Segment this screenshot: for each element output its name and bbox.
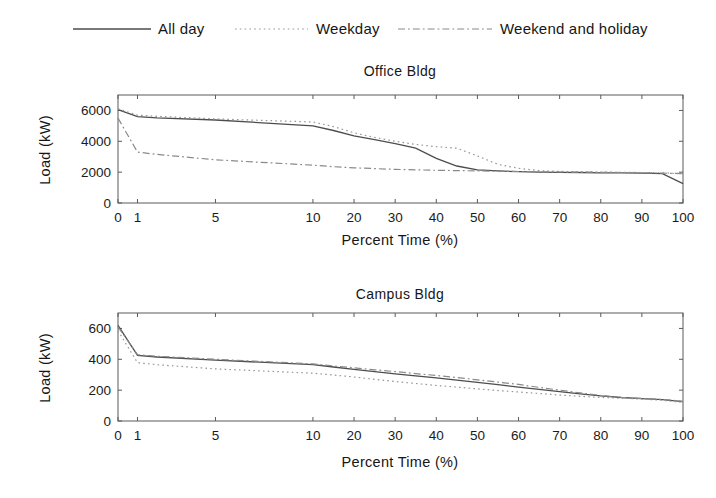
- series-line-solid: [118, 325, 683, 401]
- x-tick-label: 30: [388, 428, 403, 443]
- office-x-axis-label: Percent Time (%): [342, 232, 459, 248]
- x-tick-label: 10: [305, 210, 320, 225]
- x-tick-label: 80: [593, 428, 608, 443]
- x-tick-label: 50: [470, 428, 485, 443]
- series-line-solid: [118, 110, 683, 184]
- y-tick-label: 0: [103, 196, 111, 211]
- y-tick-label: 0: [103, 414, 111, 429]
- plot-canvas: 0151020304050607080901000200040006000015…: [0, 0, 716, 498]
- plot-frame: [118, 95, 683, 203]
- y-tick-label: 6000: [81, 103, 111, 118]
- x-tick-label: 5: [212, 210, 220, 225]
- y-tick-label: 600: [88, 321, 111, 336]
- series-line-dotted: [118, 109, 683, 174]
- load-duration-figure: All day Weekday Weekend and holiday 0151…: [0, 0, 716, 498]
- series-line-dotted: [118, 331, 683, 403]
- x-tick-label: 100: [672, 428, 695, 443]
- y-tick-label: 4000: [81, 134, 111, 149]
- x-tick-label: 100: [672, 210, 695, 225]
- x-tick-label: 70: [552, 210, 567, 225]
- plot-frame: [118, 313, 683, 421]
- x-tick-label: 10: [305, 428, 320, 443]
- x-tick-label: 50: [470, 210, 485, 225]
- x-tick-label: 40: [429, 428, 444, 443]
- x-tick-label: 90: [634, 210, 649, 225]
- x-tick-label: 40: [429, 210, 444, 225]
- campus-x-axis-label: Percent Time (%): [342, 454, 459, 470]
- x-tick-label: 20: [347, 428, 362, 443]
- campus-y-axis-label: Load (kW): [37, 333, 53, 403]
- office-y-axis-label: Load (kW): [37, 115, 53, 185]
- x-tick-label: 90: [634, 428, 649, 443]
- x-tick-label: 70: [552, 428, 567, 443]
- x-tick-label: 80: [593, 210, 608, 225]
- office-chart-title: Office Bldg: [364, 63, 437, 79]
- campus-chart-title: Campus Bldg: [356, 286, 444, 302]
- x-tick-label: 0: [114, 210, 122, 225]
- series-line-dashdot: [118, 118, 683, 174]
- x-tick-label: 30: [388, 210, 403, 225]
- x-tick-label: 60: [511, 210, 526, 225]
- series-line-dashdot: [118, 327, 683, 401]
- y-tick-label: 400: [88, 352, 111, 367]
- x-tick-label: 0: [114, 428, 122, 443]
- y-tick-label: 200: [88, 383, 111, 398]
- x-tick-label: 1: [134, 428, 142, 443]
- y-tick-label: 2000: [81, 165, 111, 180]
- x-tick-label: 5: [212, 428, 220, 443]
- x-tick-label: 1: [134, 210, 142, 225]
- x-tick-label: 60: [511, 428, 526, 443]
- x-tick-label: 20: [347, 210, 362, 225]
